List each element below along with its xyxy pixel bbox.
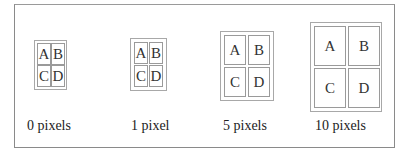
table-cell: B [51,43,65,65]
table-cell: D [348,68,380,108]
example-label: 1 pixel [131,118,170,134]
table-cell: B [248,35,270,65]
table-example-1px: A B C D [130,38,167,91]
example-label: 0 pixels [27,118,71,134]
table-cell: C [37,65,51,87]
example-label: 5 pixels [223,118,267,134]
table-example-10px: A B C D [310,22,382,112]
table-cell: A [314,26,346,66]
table-example-0px: A B C D [34,40,67,90]
table-cell: B [348,26,380,66]
table-cell: D [149,65,163,87]
table-cell: C [224,67,246,97]
table-cell: A [134,42,148,64]
table-cell: A [37,43,51,65]
table-cell: B [149,42,163,64]
table-cell: D [51,65,65,87]
table-cell: A [224,35,246,65]
table-cell: C [134,65,148,87]
table-cell: D [248,67,270,97]
table-cell: C [314,68,346,108]
example-label: 10 pixels [315,118,366,134]
table-example-5px: A B C D [220,31,274,101]
